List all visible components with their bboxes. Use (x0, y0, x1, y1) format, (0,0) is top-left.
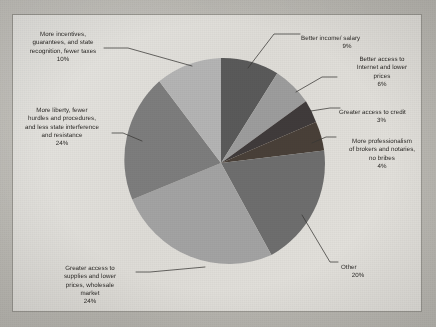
label-other: Other 20% (341, 256, 411, 289)
label-brokers-pct: 4% (334, 163, 430, 171)
label-internet-pct: 6% (336, 81, 428, 89)
label-brokers-text: More professionalism of brokers and nota… (349, 138, 415, 161)
label-supplies-pct: 24% (44, 298, 136, 306)
pie-slices (124, 58, 325, 264)
label-income-text: Better income/ salary (301, 35, 360, 42)
label-credit-text: Greater access to credit (339, 109, 406, 116)
leader-supplies (136, 267, 205, 272)
label-supplies: Greater access to supplies and lower pri… (44, 257, 136, 314)
label-other-text: Other (341, 264, 357, 271)
leader-other (302, 215, 338, 262)
label-incentives-text: More incentives, guarantees, and state r… (30, 31, 97, 54)
label-internet: Better access to Internet and lower pric… (336, 48, 428, 97)
label-credit: Greater access to credit 3% (339, 101, 434, 134)
leader-income (248, 34, 300, 68)
label-liberty-pct: 24% (12, 140, 112, 148)
leader-internet (296, 77, 337, 92)
label-liberty-text: More liberty, fewer hurdles and procedur… (25, 107, 99, 139)
label-brokers: More professionalism of brokers and nota… (334, 130, 430, 179)
label-incentives-pct: 10% (22, 56, 104, 64)
label-other-pct: 20% (341, 272, 375, 280)
label-incentives: More incentives, guarantees, and state r… (22, 23, 104, 72)
leader-incentives (104, 48, 192, 66)
leader-credit (311, 108, 340, 111)
label-supplies-text: Greater access to supplies and lower pri… (64, 265, 116, 297)
label-internet-text: Better access to Internet and lower pric… (357, 56, 407, 79)
label-credit-pct: 3% (339, 117, 424, 125)
label-liberty: More liberty, fewer hurdles and procedur… (12, 99, 112, 156)
